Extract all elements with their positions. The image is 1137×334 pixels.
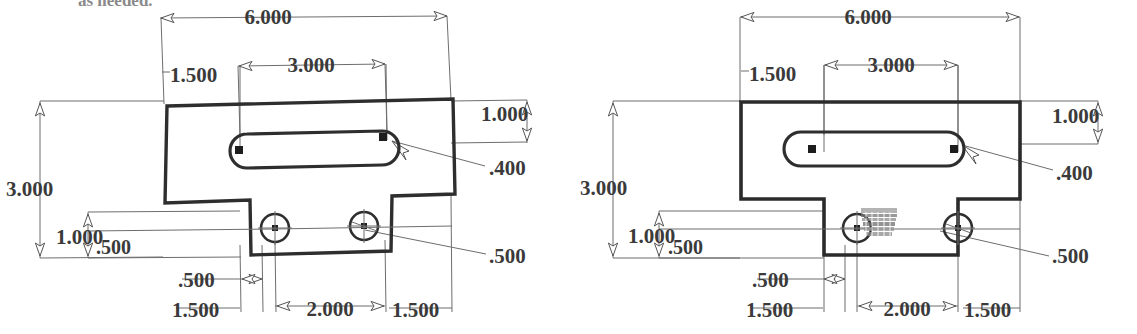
dim-400-right: .400 bbox=[1056, 161, 1093, 185]
dim-1000-right-right: 1.000 bbox=[1052, 104, 1099, 128]
dim-3000-top-left: 3.000 bbox=[287, 53, 334, 77]
dim-3000-left-left: 3.000 bbox=[6, 177, 53, 201]
dim-1500-top-left: 1.500 bbox=[170, 63, 217, 87]
dim-500-right-right: .500 bbox=[1052, 244, 1089, 268]
dim-500-right-left: .500 bbox=[489, 244, 526, 268]
engineering-drawing-svg: as needed. bbox=[0, 0, 1137, 334]
top-note: as needed. bbox=[78, 0, 153, 10]
dim-500-left-right: .500 bbox=[668, 236, 703, 258]
dim-1500-bottom-left-right: 1.500 bbox=[746, 298, 793, 322]
page-background bbox=[0, 0, 1137, 334]
drawing-canvas: as needed. bbox=[0, 0, 1137, 334]
dim-1500-bottom-right-right: 1.500 bbox=[964, 298, 1011, 322]
dim-500-bottom-right: .500 bbox=[752, 268, 789, 292]
dim-3000-top-right: 3.000 bbox=[867, 53, 914, 77]
slot-center-mark-right bbox=[950, 145, 958, 153]
dim-1000-right-left: 1.000 bbox=[481, 102, 528, 126]
dim-500-left-left: .500 bbox=[96, 236, 131, 258]
dim-2000-bottom-left: 2.000 bbox=[306, 297, 353, 321]
top-note-text: as needed. bbox=[78, 0, 153, 10]
slot-center-mark-right bbox=[379, 133, 387, 141]
dim-3000-left-right: 3.000 bbox=[580, 176, 627, 200]
dim-500-bottom-left: .500 bbox=[178, 268, 215, 292]
dim-6000-right: 6.000 bbox=[844, 5, 891, 29]
dim-2000-bottom-right: 2.000 bbox=[883, 297, 930, 321]
slot-center-mark-left bbox=[235, 146, 243, 154]
slot-center-mark-left bbox=[808, 145, 816, 153]
dim-1500-bottom-left-left: 1.500 bbox=[172, 298, 219, 322]
dim-6000-left: 6.000 bbox=[244, 5, 291, 29]
dim-400-left: .400 bbox=[489, 156, 526, 180]
dim-1500-bottom-right-left: 1.500 bbox=[392, 298, 439, 322]
dim-1500-top-right: 1.500 bbox=[749, 62, 796, 86]
